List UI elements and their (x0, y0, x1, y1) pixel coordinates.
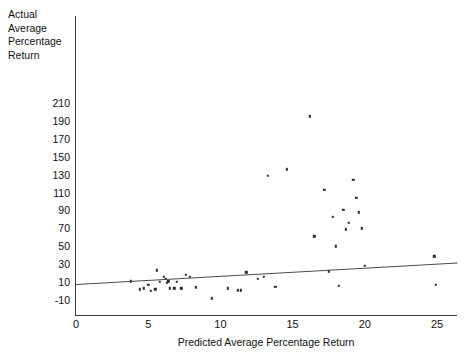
data-point (150, 290, 152, 292)
data-point (286, 168, 288, 170)
data-point (154, 288, 156, 290)
data-point (257, 277, 259, 279)
y-tick-label: 210 (40, 98, 70, 109)
data-point (267, 174, 269, 176)
x-tick-10: 10 (214, 319, 226, 330)
y-tick-label: 70 (40, 223, 70, 234)
data-point (433, 255, 435, 257)
data-point (185, 274, 187, 276)
data-point (169, 287, 171, 289)
data-point (345, 228, 347, 230)
y-axis-label-line-1: Actual (8, 8, 74, 22)
y-tick-label: 90 (40, 205, 70, 216)
y-tick-label: 170 (40, 134, 70, 145)
data-point (143, 287, 145, 289)
data-point (348, 222, 350, 224)
data-point (361, 227, 363, 229)
data-point (355, 197, 357, 199)
x-tick-25: 25 (431, 319, 443, 330)
data-point (167, 280, 169, 282)
x-axis-line (75, 315, 457, 316)
y-tick-label: 110 (40, 188, 70, 199)
data-point (263, 276, 265, 278)
data-point (338, 284, 340, 286)
data-point (211, 297, 213, 299)
x-axis-label: Predicted Average Percentage Return (75, 336, 457, 348)
data-point (358, 211, 360, 213)
data-point (156, 269, 158, 271)
data-point (180, 287, 182, 289)
data-point (335, 245, 337, 247)
data-point (245, 271, 247, 273)
data-point (323, 189, 325, 191)
data-point (434, 284, 436, 286)
y-tick-label: 50 (40, 241, 70, 252)
y-axis-label-line-4: Return (8, 49, 74, 63)
data-point (309, 115, 311, 117)
y-axis-label-line-2: Average (8, 22, 74, 36)
y-axis-label: Actual Average Percentage Return (8, 8, 74, 62)
data-point (176, 281, 178, 283)
data-point (313, 235, 315, 237)
x-tick-15: 15 (286, 319, 298, 330)
x-tick-0: 0 (73, 319, 79, 330)
y-tick-label: 30 (40, 259, 70, 270)
data-point (173, 287, 175, 289)
data-point (159, 281, 161, 283)
y-tick-label: 150 (40, 152, 70, 163)
data-point (274, 285, 276, 287)
y-tick-label: -10 (40, 295, 70, 306)
trend-line (76, 262, 457, 284)
x-tick-5: 5 (145, 319, 151, 330)
y-axis-line (75, 16, 76, 316)
data-point (352, 179, 354, 181)
data-point (195, 286, 197, 288)
data-point (239, 289, 241, 291)
y-tick-label: 190 (40, 116, 70, 127)
data-point (332, 216, 334, 218)
data-point (138, 288, 140, 290)
data-point (342, 208, 344, 210)
y-tick-label: 10 (40, 277, 70, 288)
data-point (226, 287, 228, 289)
scatter-plot: Actual Average Percentage Return -101030… (0, 0, 469, 354)
y-axis-label-line-3: Percentage (8, 35, 74, 49)
data-point (147, 284, 149, 286)
y-tick-label: 130 (40, 170, 70, 181)
x-tick-20: 20 (359, 319, 371, 330)
